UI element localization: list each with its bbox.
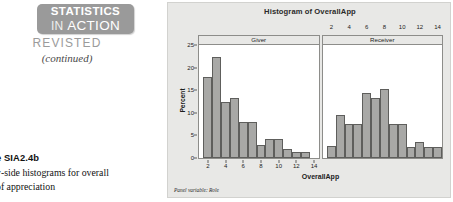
histogram-bar <box>380 89 389 158</box>
minitab-histogram-figure: Histogram of OverallApp 0510152025 Perce… <box>167 2 451 198</box>
histogram-bar <box>327 146 336 158</box>
histogram-bar <box>353 124 362 158</box>
histogram-bar <box>362 93 371 158</box>
caption-line-2: of appreciation <box>0 180 168 193</box>
x-tick-label: 10 <box>275 163 282 169</box>
histogram-bar <box>257 145 266 158</box>
y-tick-label: 25 <box>187 42 194 48</box>
histogram-bar <box>274 139 283 158</box>
histogram-bar <box>248 122 257 158</box>
x-tick-mark <box>278 160 279 163</box>
y-tick-mark <box>194 112 197 113</box>
panel-receiver: Receiver <box>322 35 444 159</box>
panel-label-receiver: Receiver <box>322 35 444 44</box>
y-tick-label: 10 <box>187 110 194 116</box>
panel-plot-giver <box>198 44 320 159</box>
x-axis-giver: 2468101214 <box>198 160 320 172</box>
histogram-bar <box>371 98 380 158</box>
caption-figure-number: e SIA2.4b <box>0 152 168 165</box>
x-tick-mark <box>243 160 244 163</box>
histogram-bar <box>389 124 398 158</box>
y-tick-mark <box>194 45 197 46</box>
margin-column: STATISTICS IN ACTION REVISTED (continued… <box>0 0 165 202</box>
chart-title: Histogram of OverallApp <box>168 7 452 16</box>
badge-line-statistics: STATISTICS <box>51 6 120 18</box>
x-tick-label: 6 <box>242 163 245 169</box>
statistics-in-action-badge: STATISTICS IN ACTION <box>37 4 134 34</box>
plot-area: Giver2468101214Receiver2468101214 <box>198 35 443 159</box>
histogram-bar <box>398 124 407 158</box>
x-tick-label: 8 <box>383 24 386 30</box>
histogram-bar <box>239 122 248 158</box>
badge-word-action: ACTION <box>67 18 120 33</box>
x-tick-mark <box>296 160 297 163</box>
histogram-bar <box>345 124 354 158</box>
x-tick-label: 4 <box>224 163 227 169</box>
x-axis-receiver: 2468101214 <box>322 24 444 36</box>
badge-word-in: IN <box>51 19 67 33</box>
histogram-bar <box>212 57 221 158</box>
y-tick-mark <box>194 90 197 91</box>
x-tick-label: 2 <box>206 163 209 169</box>
panel-variable-note: Panel variable: Role <box>174 187 219 193</box>
y-tick-label: 20 <box>187 65 194 71</box>
badge-line-in-action: IN ACTION <box>51 19 120 33</box>
histogram-bar <box>203 77 212 158</box>
figure-caption: e SIA2.4b y-side histograms for overall … <box>0 152 168 193</box>
panel-label-giver: Giver <box>198 35 320 44</box>
x-tick-mark <box>260 160 261 163</box>
x-tick-label: 12 <box>417 24 424 30</box>
y-tick-mark <box>194 135 197 136</box>
histogram-bar <box>415 142 424 158</box>
x-tick-label: 6 <box>365 24 368 30</box>
x-tick-label: 2 <box>330 24 333 30</box>
x-tick-mark <box>314 160 315 163</box>
revisited-label: REVISTED <box>0 36 134 50</box>
histogram-bar <box>283 149 292 158</box>
y-axis-label: Percent <box>179 70 186 130</box>
histogram-bar <box>265 139 274 158</box>
x-tick-label: 10 <box>399 24 406 30</box>
histogram-bar <box>424 147 433 158</box>
histogram-bar <box>301 152 310 158</box>
y-tick-label: 15 <box>187 87 194 93</box>
caption-line-1: y-side histograms for overall <box>0 166 168 179</box>
x-tick-mark <box>225 160 226 163</box>
histogram-bar <box>336 115 345 158</box>
histogram-bar <box>433 147 442 158</box>
continued-label: (continued) <box>0 52 134 64</box>
x-tick-label: 8 <box>259 163 262 169</box>
histogram-bar <box>292 152 301 158</box>
bar-series-giver <box>199 45 319 158</box>
x-tick-label: 14 <box>434 24 441 30</box>
x-tick-mark <box>207 160 208 163</box>
histogram-bar <box>221 102 230 159</box>
y-tick-mark <box>194 158 197 159</box>
panel-plot-receiver <box>322 44 444 159</box>
histogram-bar <box>407 147 416 158</box>
bar-series-receiver <box>323 45 443 158</box>
histogram-bar <box>230 98 239 158</box>
x-tick-label: 12 <box>293 163 300 169</box>
x-axis-label: OverallApp <box>198 173 443 180</box>
x-tick-label: 14 <box>311 163 318 169</box>
textbook-page: STATISTICS IN ACTION REVISTED (continued… <box>0 0 453 202</box>
y-tick-mark <box>194 67 197 68</box>
x-tick-label: 4 <box>347 24 350 30</box>
panel-giver: Giver <box>198 35 320 159</box>
